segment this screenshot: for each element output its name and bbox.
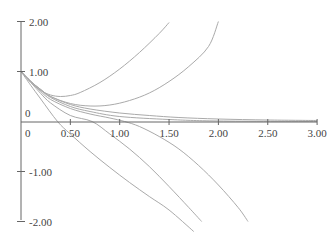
x-tick-label: 2.00 — [209, 127, 229, 139]
x-tick-label: 2.50 — [258, 127, 278, 139]
y-tick-label: 2.00 — [29, 16, 49, 28]
y-tick-label: -2.00 — [29, 216, 52, 228]
x-origin-label: 0 — [25, 127, 31, 139]
curve-5 — [21, 72, 248, 222]
y-origin-label: 0 — [25, 107, 31, 119]
x-tick-label: 0.50 — [61, 127, 81, 139]
curve-2 — [21, 22, 218, 107]
line-chart: 0.501.001.502.002.503.002.001.00-1.00-2.… — [0, 0, 336, 237]
x-tick-label: 1.50 — [159, 127, 179, 139]
y-tick-label: -1.00 — [29, 166, 52, 178]
x-tick-label: 3.00 — [307, 127, 327, 139]
y-tick-label: 1.00 — [29, 66, 49, 78]
x-tick-label: 1.00 — [110, 127, 130, 139]
curve-1 — [21, 23, 169, 97]
